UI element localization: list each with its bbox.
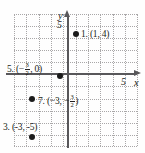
point-label-5-suffix: , 0) — [30, 64, 42, 74]
fraction-three-halves: 32 — [25, 62, 30, 76]
gridline-horizontal — [14, 111, 137, 112]
plotted-point-3 — [29, 134, 35, 140]
y-axis — [67, 16, 69, 148]
point-label-7-prefix: 7. (−3, − — [38, 96, 69, 106]
gridline-vertical — [51, 14, 52, 146]
gridline-horizontal — [14, 50, 137, 51]
fraction-three-halves: 32 — [70, 94, 75, 108]
plotted-point-1 — [73, 31, 79, 37]
point-label-7-suffix: ) — [75, 96, 78, 106]
fraction-numerator: 3 — [70, 94, 75, 101]
y-axis-tick-5: 5 — [57, 19, 62, 30]
fraction-numerator: 3 — [25, 62, 30, 69]
point-label-3-text: 3. (-3, -5) — [3, 122, 37, 132]
x-axis-tick-5: 5 — [121, 76, 126, 87]
gridline-horizontal — [14, 14, 137, 15]
point-label-7: 7. (−3, −32) — [38, 94, 78, 108]
point-label-3: 3. (-3, -5) — [3, 123, 37, 133]
plotted-point-5 — [57, 73, 63, 79]
gridline-vertical — [63, 14, 64, 146]
y-axis-arrow-icon — [64, 10, 70, 17]
point-label-1: 1. (1, 4) — [81, 30, 109, 40]
gridline-horizontal — [14, 146, 137, 147]
gridline-horizontal — [14, 38, 137, 39]
gridline-vertical — [39, 14, 40, 146]
plotted-point-7 — [29, 96, 35, 102]
gridline-horizontal — [14, 26, 137, 27]
point-label-5: 5. (−32, 0) — [7, 62, 42, 76]
point-label-5-prefix: 5. (− — [7, 64, 24, 74]
fraction-denominator: 2 — [70, 101, 75, 109]
fraction-denominator: 2 — [25, 69, 30, 77]
gridline-vertical — [113, 14, 114, 146]
gridline-horizontal — [14, 86, 137, 87]
x-axis-label: x — [134, 77, 139, 88]
x-axis-arrow-icon — [134, 70, 141, 76]
coordinate-plane-figure: y x 5 5 1. (1, 4) 5. (−32, 0) 7. (−3, −3… — [0, 0, 145, 153]
